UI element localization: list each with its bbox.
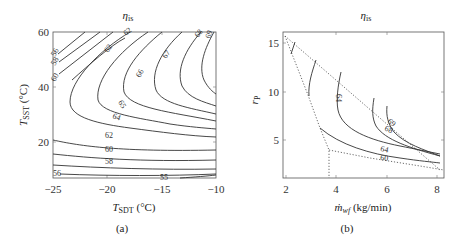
panel-a-contour-labels: 56 58 60 62 62 66 67 65 64 68 69 62 60 5… (49, 25, 215, 182)
svg-text:20: 20 (38, 136, 50, 148)
panel-a-x-tick-labels: −25 −20 −15 −10 (44, 183, 225, 195)
panel-a-title: ηis (123, 9, 134, 23)
svg-text:62: 62 (105, 131, 113, 140)
svg-text:68: 68 (383, 124, 394, 136)
svg-text:64: 64 (334, 94, 343, 102)
svg-text:56: 56 (49, 47, 61, 58)
svg-text:60: 60 (380, 153, 389, 163)
svg-text:8: 8 (434, 183, 440, 195)
svg-text:60: 60 (49, 72, 61, 83)
svg-text:6: 6 (384, 183, 390, 195)
svg-text:68: 68 (193, 27, 205, 39)
panel-b-title: ηis (361, 9, 372, 23)
panel-b-contours (291, 42, 440, 163)
panel-b-x-tick-labels: 2 4 6 8 (283, 183, 440, 195)
panel-b-y-tick-labels: 15 10 5 (268, 37, 280, 146)
svg-text:58: 58 (105, 157, 113, 166)
svg-text:2: 2 (283, 183, 289, 195)
panel-a-contours (53, 32, 216, 178)
svg-text:−10: −10 (207, 183, 225, 195)
svg-text:65: 65 (116, 99, 128, 110)
figure: ηis (0, 0, 462, 236)
panel-a-caption: (a) (116, 222, 129, 235)
panel-b-ylabel: rP (248, 95, 262, 104)
panel-a: ηis (17, 9, 225, 235)
svg-text:64: 64 (111, 111, 122, 122)
panel-b-ticks (283, 32, 444, 178)
svg-text:15: 15 (268, 37, 280, 49)
svg-text:69: 69 (203, 29, 214, 40)
panel-b-caption: (b) (341, 222, 354, 235)
svg-text:60: 60 (105, 145, 113, 154)
panel-a-y-tick-labels: 60 40 20 (38, 26, 50, 148)
svg-text:40: 40 (38, 81, 50, 93)
panel-a-xlabel: TSDT (°C) (112, 201, 155, 215)
svg-text:67: 67 (160, 48, 172, 60)
svg-text:60: 60 (38, 26, 50, 38)
panel-b-xlabel: ṁwf (kg/min) (335, 201, 392, 215)
svg-text:56: 56 (53, 169, 61, 178)
panel-b-boundary (285, 36, 444, 178)
svg-text:66: 66 (134, 68, 146, 79)
svg-text:−20: −20 (98, 183, 116, 195)
panel-a-ylabel: TSST (°C) (17, 84, 31, 126)
panel-b-axes-frame (283, 32, 444, 178)
panel-b: ηis 64 69 68 64 6 (248, 9, 444, 235)
svg-text:5: 5 (274, 134, 280, 146)
svg-text:58: 58 (49, 56, 61, 67)
svg-text:−25: −25 (44, 183, 62, 195)
svg-text:55: 55 (160, 173, 168, 182)
panel-b-contour-labels: 64 69 68 64 60 (334, 94, 398, 163)
svg-text:10: 10 (268, 86, 280, 98)
svg-text:−15: −15 (153, 183, 171, 195)
svg-text:4: 4 (333, 183, 339, 195)
